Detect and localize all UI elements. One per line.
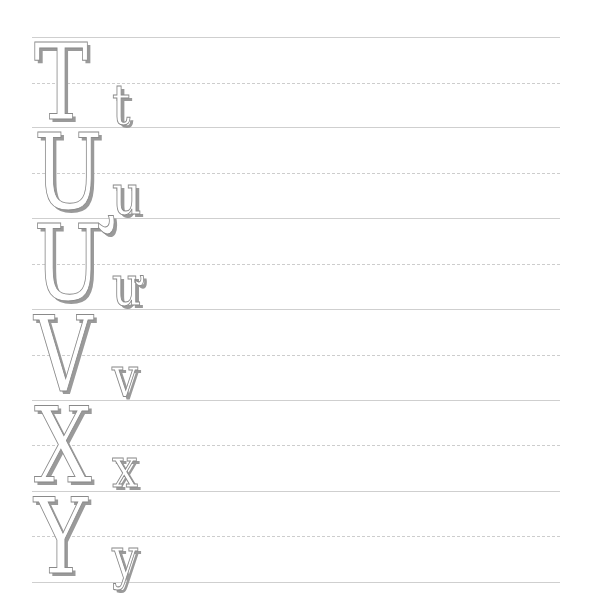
lowercase-letter-tracing: ư (112, 258, 142, 314)
ruled-line-top (32, 37, 560, 38)
lowercase-letter-tracing: v (112, 349, 138, 405)
uppercase-letter-tracing: Y (34, 485, 88, 589)
handwriting-worksheet: T t U u Ư ư V v X x Y y (0, 0, 589, 613)
lowercase-letter-tracing: t (112, 77, 130, 133)
lowercase-letter-tracing: u (112, 167, 142, 223)
lowercase-letter-tracing: y (112, 531, 138, 587)
lowercase-letter-tracing: x (112, 440, 138, 496)
